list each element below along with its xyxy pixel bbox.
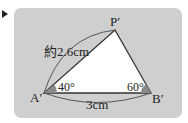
vertex-b-label: B′: [152, 92, 164, 105]
vertex-p-label: P′: [110, 15, 120, 28]
angle-b-label: 60°: [127, 81, 144, 93]
vertex-a-label: A′: [30, 91, 42, 104]
length-ab-label: 3cm: [86, 98, 108, 111]
length-ap-label: 約2.6cm: [44, 45, 89, 58]
angle-a-label: 40°: [58, 81, 75, 93]
